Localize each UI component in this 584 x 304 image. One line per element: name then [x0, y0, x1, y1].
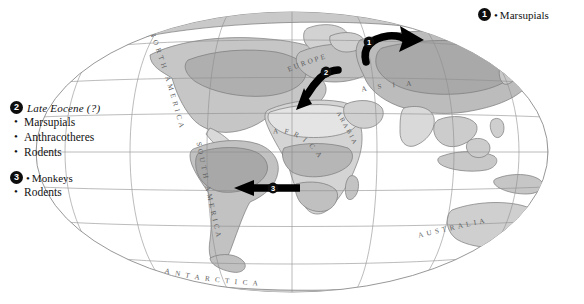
legend-group-two-item-1: Anthracotheres: [10, 130, 100, 145]
arrow-1-number: 1: [367, 38, 371, 47]
legend-marsupials-top-right: 1 Marsupials: [478, 8, 549, 21]
legend-top-right-item-0: Marsupials: [494, 9, 549, 21]
legend-group-late-eocene: 2 Late Eocene (?) Marsupials Anthracothe…: [10, 101, 100, 160]
legend-badge-3: 3: [10, 171, 23, 184]
legend-group-three-items: Rodents: [10, 185, 100, 200]
legend-group-three: 3 Monkeys Rodents: [10, 171, 100, 200]
legend-badge-2: 2: [10, 101, 23, 114]
arrow-2-number: 2: [324, 68, 328, 77]
legend-left-block: 2 Late Eocene (?) Marsupials Anthracothe…: [10, 101, 100, 200]
borneo: [466, 138, 490, 157]
legend-group-three-item-0: Monkeys: [26, 172, 73, 184]
legend-group-two-items: Marsupials Anthracotheres Rodents: [10, 115, 100, 160]
legend-group-three-item-1: Rodents: [10, 185, 100, 200]
legend-group-two-title: Late Eocene (?): [27, 102, 100, 114]
arrow-3-number: 3: [271, 184, 275, 193]
new-zealand: [545, 231, 561, 250]
legend-group-two-item-2: Rodents: [10, 145, 100, 160]
paleogeographic-dispersal-figure: NORTH AMERICA SOUTH AMERICA EUROPE ASIA …: [0, 0, 584, 304]
legend-group-two-item-0: Marsupials: [10, 115, 100, 130]
legend-badge-1: 1: [478, 8, 491, 21]
